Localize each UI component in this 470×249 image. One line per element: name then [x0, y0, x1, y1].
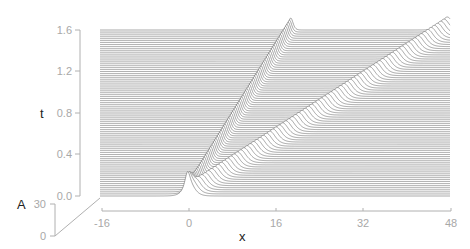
a-axis-label: A	[17, 197, 26, 212]
t-tick-label: 0.4	[57, 148, 72, 160]
t-axis-label: t	[40, 106, 44, 121]
t-tick-label: 0.8	[57, 107, 72, 119]
a-tick-label: 30	[34, 198, 46, 210]
x-tick-label: 32	[357, 217, 369, 229]
x-tick-label: -16	[94, 217, 110, 229]
x-axis: -16 0 16 32 48 x	[94, 208, 457, 244]
t-axis: 1.6 1.2 0.8 0.4 0.0 t	[40, 24, 80, 202]
waterfall-lines	[100, 17, 450, 198]
time-slice-line	[100, 17, 450, 30]
t-tick-label: 1.2	[57, 65, 72, 77]
x-tick-label: 0	[186, 217, 192, 229]
x-axis-label: x	[239, 229, 246, 244]
t-tick-label: 0.0	[57, 190, 72, 202]
t-tick-label: 1.6	[57, 24, 72, 36]
x-tick-label: 48	[445, 217, 457, 229]
x-tick-label: 16	[270, 217, 282, 229]
waterfall-plot: 1.6 1.2 0.8 0.4 0.0 t 30 0 A -16 0 16 32…	[0, 0, 470, 249]
a-tick-label: 0	[40, 230, 46, 242]
a-axis: 30 0 A	[17, 197, 100, 242]
